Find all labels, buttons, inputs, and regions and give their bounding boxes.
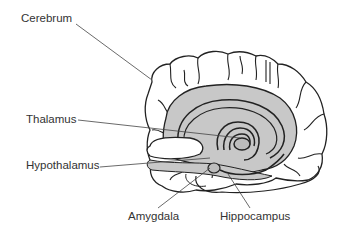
label-thalamus: Thalamus xyxy=(26,114,77,126)
leader-cerebrum xyxy=(76,24,152,80)
label-cerebrum: Cerebrum xyxy=(21,13,72,25)
cingulate-region xyxy=(163,85,296,173)
frontal-lower-lobe xyxy=(147,137,203,159)
label-hippocampus: Hippocampus xyxy=(220,211,290,223)
label-amygdala: Amygdala xyxy=(128,211,179,223)
label-hypothalamus: Hypothalamus xyxy=(26,160,100,172)
